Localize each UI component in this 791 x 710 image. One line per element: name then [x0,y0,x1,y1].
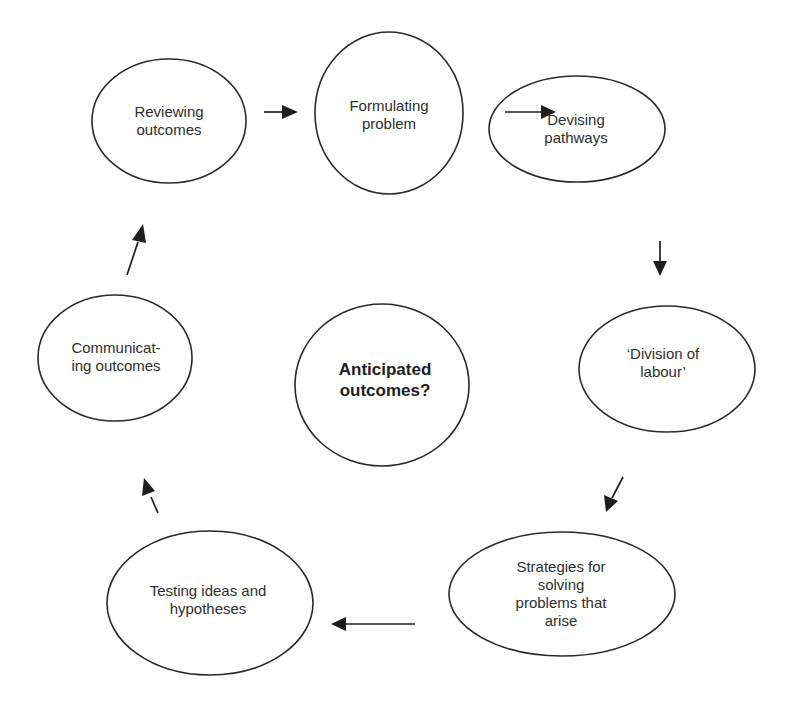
node-communicating-label: Communicat- ing outcomes [71,339,160,375]
arrow-communicating-to-reviewing [127,224,146,275]
arrow-strategies-to-testing [331,617,415,631]
node-strategies-label: Strategies for solving problems that ari… [516,558,607,630]
node-reviewing-label: Reviewing outcomes [134,103,203,139]
arrow-division-to-strategies [604,477,623,512]
arrow-devising-to-division [653,241,667,276]
node-division-label: ‘Division of labour’ [627,345,700,381]
node-formulating-label: Formulating problem [349,97,428,133]
center-anticipated-label: Anticipated outcomes? [339,359,432,401]
node-testing-label: Testing ideas and hypotheses [150,582,267,618]
node-devising-label: Devising pathways [544,111,607,147]
arrow-reviewing-to-formulating [264,105,298,119]
arrow-testing-to-communicating [142,478,158,513]
